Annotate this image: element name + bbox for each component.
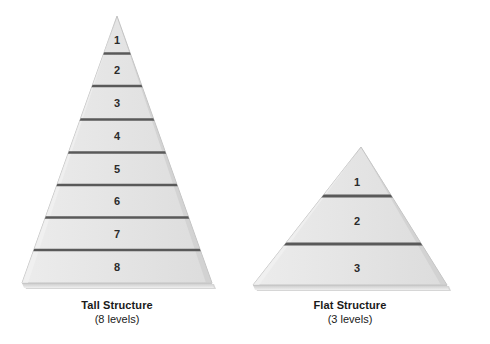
pyramid-tall-level-label-7: 7 (114, 228, 120, 240)
pyramid-tall-base-slab (22, 283, 214, 288)
caption-flat-structure: Flat Structure (3 levels) (250, 298, 450, 326)
caption-flat-title: Flat Structure (250, 298, 450, 312)
pyramid-tall-level-label-4: 4 (114, 130, 121, 142)
pyramid-tall-level-label-1: 1 (114, 34, 120, 46)
pyramid-tall-level-label-5: 5 (114, 163, 120, 175)
pyramid-flat-level-label-1: 1 (354, 176, 360, 188)
pyramid-tall-level-label-8: 8 (114, 261, 120, 273)
caption-tall-structure: Tall Structure (8 levels) (17, 298, 217, 326)
caption-tall-subtitle: (8 levels) (17, 312, 217, 326)
pyramid-flat-level-label-2: 2 (354, 215, 360, 227)
caption-tall-title: Tall Structure (17, 298, 217, 312)
pyramid-tall-level-label-2: 2 (114, 64, 120, 76)
pyramid-flat-base-slab (253, 285, 449, 290)
caption-flat-subtitle: (3 levels) (250, 312, 450, 326)
pyramid-tall-level-label-3: 3 (114, 97, 120, 109)
pyramid-tall-level-label-6: 6 (114, 195, 120, 207)
diagram-canvas: 1 2 3 4 5 6 7 8 1 2 3 Tall Struct (0, 0, 490, 344)
pyramid-tall-face (22, 16, 212, 283)
pyramid-flat-face (253, 147, 447, 285)
pyramid-flat-level-label-3: 3 (354, 262, 360, 274)
pyramids-illustration: 1 2 3 4 5 6 7 8 1 2 3 (0, 0, 490, 344)
